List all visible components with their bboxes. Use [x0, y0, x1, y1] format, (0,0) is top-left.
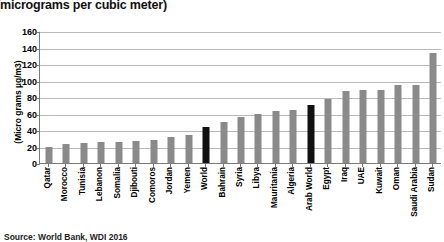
bar-slot: [355, 32, 372, 163]
bar-slot: [267, 32, 284, 163]
x-axis-tick-label: Kuwait: [376, 167, 384, 194]
x-axis-tick-labels: QatarMoroccoTunisiaLebanonSomaliaDjibout…: [39, 165, 441, 239]
x-axis-label-slot: Comoros: [144, 165, 161, 239]
bar[interactable]: [168, 137, 175, 163]
bar[interactable]: [272, 111, 279, 163]
bar-slot: [320, 32, 337, 163]
bar-series: [40, 32, 441, 163]
y-axis-tick-label: 160: [3, 28, 37, 37]
bar-slot: [407, 32, 424, 163]
source-note: Source: World Bank, WDI 2016: [4, 232, 128, 242]
x-axis-tick-label: Sudan: [428, 167, 436, 192]
x-axis-tick-label: Mauritania: [271, 167, 279, 208]
bar-slot: [232, 32, 249, 163]
bar-slot: [337, 32, 354, 163]
bar[interactable]: [80, 143, 87, 163]
bar[interactable]: [185, 135, 192, 163]
y-axis-tick-label: 40: [3, 127, 37, 136]
bar-slot: [127, 32, 144, 163]
x-axis-label-slot: Bahrain: [214, 165, 231, 239]
bar[interactable]: [342, 91, 349, 163]
x-axis-tick-label: Algeria: [288, 167, 296, 195]
bar[interactable]: [45, 147, 52, 163]
x-axis-tick-label: Jordan: [166, 167, 174, 194]
x-axis-label-slot: Syria: [231, 165, 248, 239]
x-axis-tick-label: World: [201, 167, 209, 190]
x-axis-tick-label: Djibouti: [131, 167, 139, 197]
x-axis-label-slot: Qatar: [39, 165, 56, 239]
x-axis-tick-label: Oman: [393, 167, 401, 190]
bar[interactable]: [150, 140, 157, 163]
x-axis-label-slot: Libya: [249, 165, 266, 239]
x-axis-label-slot: Algeria: [284, 165, 301, 239]
y-axis-tick-label: 80: [3, 94, 37, 103]
y-axis-tick-label: 20: [3, 143, 37, 152]
bar[interactable]: [412, 85, 419, 163]
x-axis-label-slot: Arab World: [301, 165, 318, 239]
y-axis-tick-labels: 020406080100120140160: [0, 32, 37, 164]
bar-slot: [40, 32, 57, 163]
bar[interactable]: [203, 127, 210, 163]
bar-slot: [425, 32, 442, 163]
bar[interactable]: [290, 110, 297, 163]
bar-slot: [390, 32, 407, 163]
x-axis-tick-label: Yemen: [183, 167, 191, 193]
bar[interactable]: [325, 99, 332, 163]
x-axis-label-slot: Yemen: [179, 165, 196, 239]
x-axis-tick-label: Morocco: [61, 167, 69, 201]
x-axis-label-slot: Jordan: [161, 165, 178, 239]
bar-slot: [285, 32, 302, 163]
x-axis-label-slot: World: [196, 165, 213, 239]
bar-slot: [75, 32, 92, 163]
bar[interactable]: [307, 105, 314, 163]
y-axis-tick-label: 140: [3, 44, 37, 53]
x-axis-tick-label: Iraq: [341, 167, 349, 182]
bar[interactable]: [255, 114, 262, 164]
x-axis-label-slot: Sudan: [424, 165, 441, 239]
x-axis-label-slot: Saudi Arabia: [406, 165, 423, 239]
bar-slot: [302, 32, 319, 163]
bar-slot: [162, 32, 179, 163]
bar[interactable]: [395, 85, 402, 163]
x-axis-tick-label: Qatar: [44, 167, 52, 188]
bar[interactable]: [220, 122, 227, 163]
x-axis-label-slot: Egypt: [319, 165, 336, 239]
x-axis-label-slot: Morocco: [56, 165, 73, 239]
x-axis-tick-label: Lebanon: [96, 167, 104, 201]
bar[interactable]: [360, 90, 367, 163]
x-axis-label-slot: Djibouti: [126, 165, 143, 239]
x-axis-label-slot: Kuwait: [371, 165, 388, 239]
x-axis-label-slot: Somalia: [109, 165, 126, 239]
y-axis-tick-label: 60: [3, 110, 37, 119]
bar[interactable]: [237, 117, 244, 163]
x-axis-tick-label: Libya: [253, 167, 261, 188]
y-axis-tick-label: 120: [3, 61, 37, 70]
y-axis-tick-label: 100: [3, 77, 37, 86]
y-axis-tick-label: 0: [3, 160, 37, 169]
x-axis-tick-label: Egypt: [323, 167, 331, 190]
bar[interactable]: [377, 90, 384, 163]
x-axis-tick-label: Syria: [236, 167, 244, 187]
bar-slot: [215, 32, 232, 163]
bar-slot: [372, 32, 389, 163]
bar-slot: [197, 32, 214, 163]
x-axis-label-slot: Mauritania: [266, 165, 283, 239]
bar[interactable]: [115, 142, 122, 163]
x-axis-label-slot: UAE: [354, 165, 371, 239]
x-axis-tick-label: Comoros: [148, 167, 156, 203]
bar-slot: [250, 32, 267, 163]
bar[interactable]: [98, 142, 105, 163]
bar-slot: [180, 32, 197, 163]
x-axis-tick-label: Tunisia: [79, 167, 87, 195]
bar-slot: [57, 32, 74, 163]
x-axis-tick-label: UAE: [358, 167, 366, 184]
bar[interactable]: [430, 53, 437, 163]
x-axis-tick-label: Arab World: [306, 167, 314, 211]
bar[interactable]: [133, 141, 140, 163]
bar[interactable]: [63, 144, 70, 163]
x-axis-label-slot: Oman: [389, 165, 406, 239]
x-axis-label-slot: Iraq: [336, 165, 353, 239]
bar-slot: [110, 32, 127, 163]
chart-title: (micrograms per cubic meter): [0, 0, 296, 12]
